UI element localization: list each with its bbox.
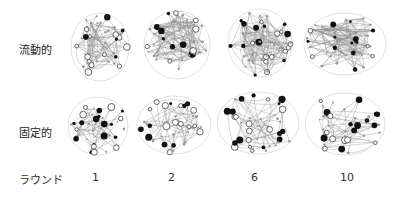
network-fixed-round-6: [217, 92, 299, 154]
network-fluid-round-6: [228, 9, 293, 77]
network-fluid-round-1: [71, 13, 130, 81]
network-fixed-round-2: [137, 96, 211, 155]
network-fluid-round-2: [144, 11, 210, 79]
network-fixed-round-1: [68, 97, 128, 155]
network-fluid-round-10: [304, 13, 386, 75]
network-diagrams: [0, 0, 406, 199]
network-fixed-round-10: [305, 93, 385, 155]
